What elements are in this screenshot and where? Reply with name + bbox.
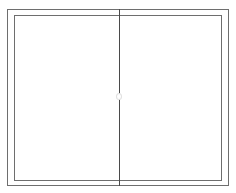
handle-icon bbox=[116, 93, 122, 100]
